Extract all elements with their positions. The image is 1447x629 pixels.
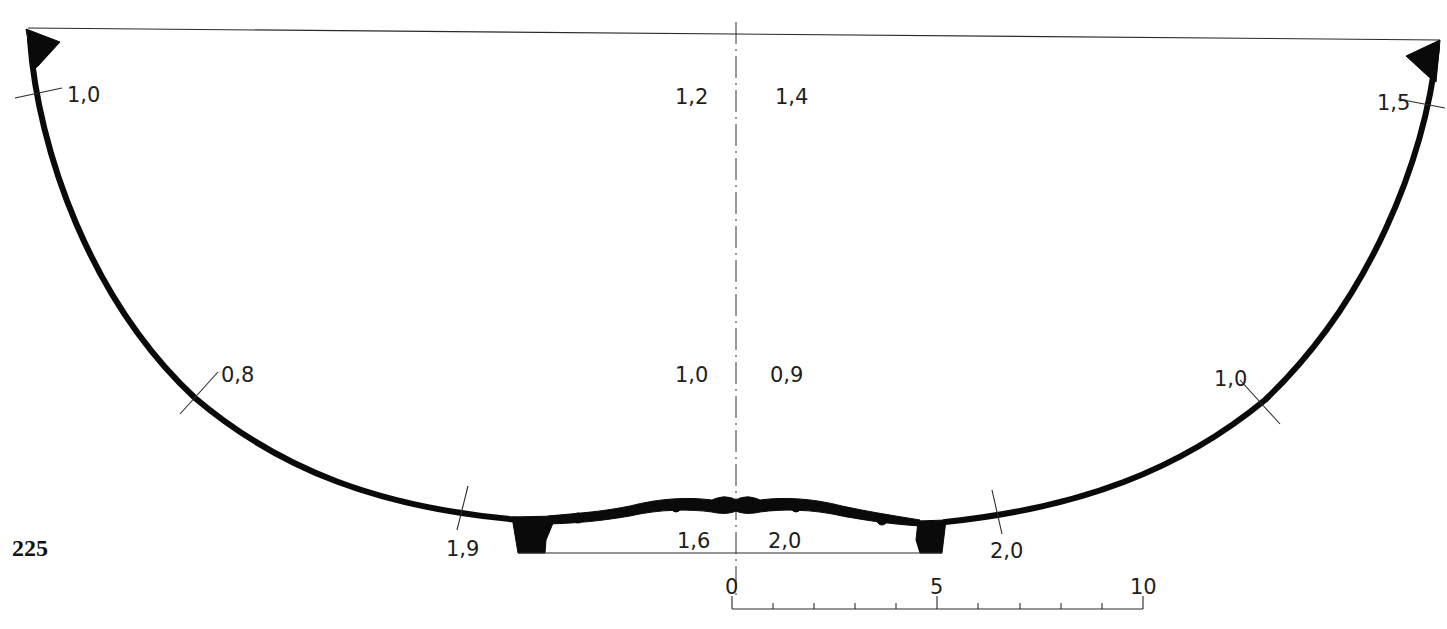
scale-bar: 0 5 10 bbox=[725, 575, 1157, 609]
label-lower-wall-left: 1,9 bbox=[446, 537, 479, 561]
rim-lug-right bbox=[1406, 40, 1440, 82]
figure-number: 225 bbox=[12, 535, 48, 561]
rim-line bbox=[28, 28, 1440, 40]
scale-label-10: 10 bbox=[1130, 575, 1157, 599]
label-rim-left: 1,0 bbox=[67, 83, 100, 107]
scale-label-0: 0 bbox=[725, 575, 738, 599]
label-mid-wall-left: 0,8 bbox=[221, 363, 254, 387]
label-mid-center-left: 1,0 bbox=[675, 363, 708, 387]
label-rim-right: 1,5 bbox=[1377, 91, 1410, 115]
label-base-center-right: 2,0 bbox=[768, 529, 801, 553]
bowl-wall-right bbox=[945, 48, 1437, 522]
label-upper-center-left: 1,2 bbox=[675, 85, 708, 109]
base-center-relief bbox=[548, 497, 920, 526]
bowl-profile-drawing: 1,0 1,5 1,2 1,4 0,8 1,0 0,9 1,0 1,9 1,6 … bbox=[0, 0, 1447, 629]
scale-label-5: 5 bbox=[930, 575, 943, 599]
dimension-markers bbox=[15, 88, 1445, 534]
label-mid-center-right: 0,9 bbox=[770, 363, 803, 387]
label-lower-wall-right: 2,0 bbox=[990, 539, 1023, 563]
label-mid-wall-right: 1,0 bbox=[1214, 367, 1247, 391]
label-upper-center-right: 1,4 bbox=[775, 85, 808, 109]
bowl-wall-left bbox=[30, 40, 520, 520]
label-base-center-left: 1,6 bbox=[677, 529, 710, 553]
